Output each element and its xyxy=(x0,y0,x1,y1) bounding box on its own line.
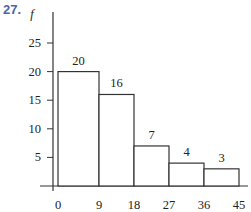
y-tick-label: 10 xyxy=(29,122,42,136)
bar-value-label: 16 xyxy=(110,76,123,90)
y-tick-label: 15 xyxy=(29,93,42,107)
histogram-bar xyxy=(99,94,134,186)
x-tick-label: 9 xyxy=(96,198,102,212)
bar-value-label: 20 xyxy=(72,54,85,68)
x-tick-label: 18 xyxy=(128,198,141,212)
histogram-bar xyxy=(169,163,204,186)
bar-value-label: 3 xyxy=(218,151,224,165)
histogram-bar xyxy=(134,146,169,186)
y-tick-label: 5 xyxy=(35,150,41,164)
histogram-bar xyxy=(204,169,239,186)
y-tick-label: 20 xyxy=(29,65,42,79)
x-tick-label: 0 xyxy=(55,198,61,212)
bar-value-label: 4 xyxy=(183,145,190,159)
bar-value-label: 7 xyxy=(148,128,154,142)
x-tick-label: 27 xyxy=(163,198,176,212)
y-axis-label: f xyxy=(30,7,35,21)
histogram-chart: f51015202520167430918273645 xyxy=(0,0,251,212)
x-tick-label: 36 xyxy=(198,198,211,212)
y-tick-label: 25 xyxy=(29,36,42,50)
histogram-bar xyxy=(58,72,99,186)
x-tick-label: 45 xyxy=(233,198,246,212)
